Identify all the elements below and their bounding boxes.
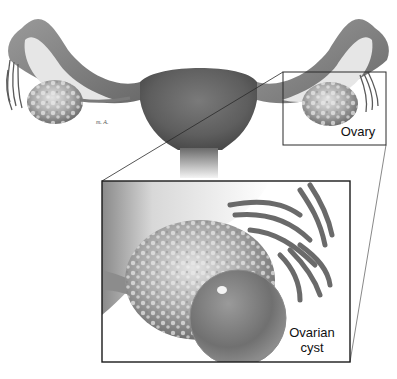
ovarian-cyst [190,270,286,366]
ovary-label: Ovary [330,124,386,139]
connector-line-right [350,145,386,362]
ovarian-cyst-label-line1: Ovarian [280,325,344,340]
ovarian-cyst-label: Ovarian cyst [280,325,344,355]
right-ovary [302,82,358,126]
anatomy-illustration: m. A. [0,0,397,379]
artist-signature: m. A. [96,119,108,125]
ovarian-cyst-label-line2: cyst [280,340,344,355]
